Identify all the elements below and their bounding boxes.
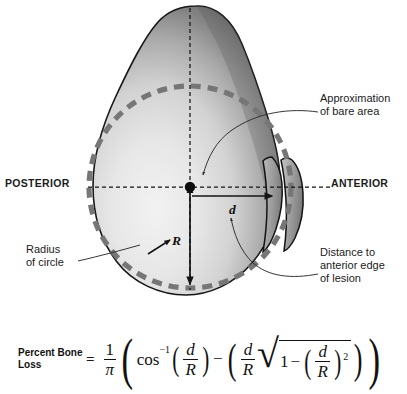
term1-numerator: d xyxy=(184,341,197,359)
radius-of-circle-callout: Radius of circle xyxy=(26,243,64,269)
distance-symbol-label: d xyxy=(229,202,236,217)
term3-numerator: d xyxy=(316,343,329,361)
term1-close-paren: ) xyxy=(202,340,209,378)
radicand-minus: − xyxy=(289,352,303,372)
term3-open-paren: ( xyxy=(304,343,311,381)
term2-open-paren: ( xyxy=(227,335,236,383)
center-point-dot xyxy=(185,182,195,192)
outer-open-paren: ( xyxy=(122,327,134,391)
radical-sign: √ xyxy=(257,338,279,381)
bone-outline-path xyxy=(93,6,280,295)
coefficient-denominator: π xyxy=(104,359,117,378)
term2-numerator: d xyxy=(242,341,255,359)
term3-denominator: R xyxy=(315,361,329,380)
term2-denominator: R xyxy=(241,359,255,378)
coefficient-fraction: 1 π xyxy=(102,341,119,378)
term1-denominator: R xyxy=(183,359,197,378)
term3-fraction: d R xyxy=(313,343,331,380)
approximation-of-bare-area-callout: Approximation of bare area xyxy=(320,92,390,118)
outer-close-paren: ) xyxy=(369,327,381,391)
formula-name-label: Percent Bone Loss xyxy=(18,347,84,372)
main-minus-operator: − xyxy=(211,349,225,369)
arccos-function: cos−1 xyxy=(137,349,170,370)
term3-exponent: 2 xyxy=(343,351,348,362)
term3-close-paren: ) xyxy=(334,343,341,381)
formula-expression: 1 π ( cos−1 ( d R ) − ( d R √ xyxy=(102,327,384,391)
distance-to-anterior-edge-callout: Distance to anterior edge of lesion xyxy=(320,246,385,285)
coefficient-numerator: 1 xyxy=(104,341,117,359)
cos-text: cos xyxy=(137,349,160,368)
formula-equals-sign: = xyxy=(84,351,102,368)
anterior-label: ANTERIOR xyxy=(331,177,388,189)
lesion-fragment-group xyxy=(263,157,303,252)
radicand: 1 − ( d R ) 2 xyxy=(279,340,351,381)
square-root-group: √ 1 − ( d R ) 2 xyxy=(257,338,351,381)
term2-close-paren: ) xyxy=(354,335,363,383)
percent-bone-loss-formula: Percent Bone Loss = 1 π ( cos−1 ( d R ) … xyxy=(18,327,407,391)
radius-symbol-label: R xyxy=(171,233,181,248)
posterior-label: POSTERIOR xyxy=(5,177,70,189)
bone-shape-group xyxy=(93,6,280,295)
term2-fraction: d R xyxy=(239,341,257,378)
bone-loss-diagram-figure: R d POSTERIOR ANTERIOR Approximation of … xyxy=(0,0,407,394)
cos-exponent: −1 xyxy=(159,344,170,355)
term1-open-paren: ( xyxy=(172,340,179,378)
radicand-one: 1 xyxy=(280,352,289,372)
term1-fraction: d R xyxy=(181,341,199,378)
